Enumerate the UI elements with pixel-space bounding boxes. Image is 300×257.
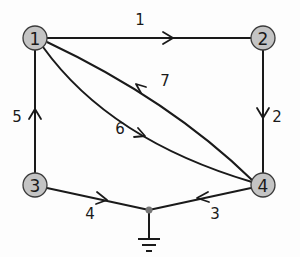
node-2-label: 2 bbox=[258, 29, 269, 49]
node-4-label: 4 bbox=[258, 176, 269, 196]
node-1-label: 1 bbox=[30, 29, 41, 49]
node-4: 4 bbox=[251, 173, 275, 197]
node-2: 2 bbox=[251, 26, 275, 50]
edge-4-label: 4 bbox=[85, 205, 95, 223]
edge-7-label: 7 bbox=[160, 72, 170, 90]
ground-junction bbox=[146, 207, 153, 214]
edge-6-label: 6 bbox=[115, 120, 125, 138]
edge-2-label: 2 bbox=[272, 108, 282, 126]
node-1: 1 bbox=[23, 26, 47, 50]
graph-diagram: 1 2 3 4 1 2 3 4 5 6 7 bbox=[0, 0, 300, 257]
diagram-svg: 1 2 3 4 1 2 3 4 5 6 7 bbox=[0, 0, 300, 257]
edge-3-label: 3 bbox=[210, 205, 220, 223]
node-3-label: 3 bbox=[30, 176, 41, 196]
edge-7 bbox=[47, 42, 252, 180]
edge-4 bbox=[47, 188, 149, 210]
edge-1-label: 1 bbox=[135, 11, 145, 29]
edge-6 bbox=[43, 47, 252, 182]
node-3: 3 bbox=[23, 173, 47, 197]
edge-5-label: 5 bbox=[12, 108, 22, 126]
